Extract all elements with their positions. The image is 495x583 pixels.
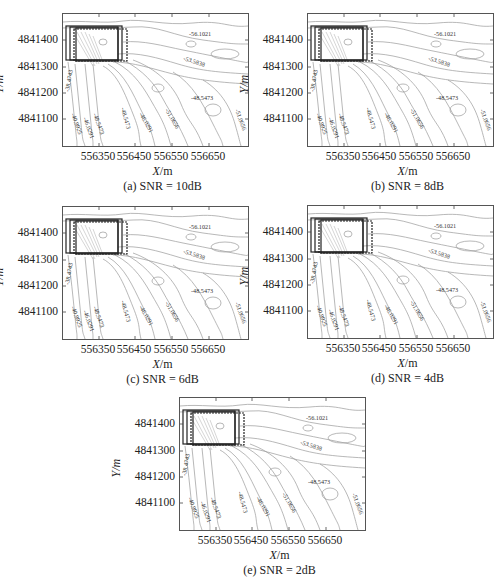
x-axis-label: X/m xyxy=(250,548,310,563)
y-tick-label: 4841200 xyxy=(247,278,303,290)
x-axis-var: X xyxy=(269,548,276,562)
plot-area: -56.1021 -53.5838 -48.5473 -51.0656 -51.… xyxy=(307,205,494,339)
x-tick-label: 556650 xyxy=(300,534,350,546)
x-axis-label: X/m xyxy=(378,164,438,179)
y-tick-label: 4841400 xyxy=(2,226,58,238)
x-axis-label: X/m xyxy=(133,357,193,372)
x-axis-unit: /m xyxy=(277,548,290,562)
contour-label: -56.1021 xyxy=(189,223,211,230)
x-axis-var: X xyxy=(397,164,404,178)
contour-label: -53.5838 xyxy=(428,54,451,68)
y-axis-label: Y/m xyxy=(237,256,252,286)
contour-label: -38.4743 xyxy=(308,69,319,92)
plot-area: -56.1021 -53.5838 -48.5473 -51.0656 -51.… xyxy=(62,206,249,340)
contour-label: -48.5473 xyxy=(120,106,132,129)
x-axis-unit: /m xyxy=(405,164,418,178)
y-axis-label: Y/m xyxy=(109,448,124,478)
y-tick-label: 4841300 xyxy=(247,60,303,72)
contour-label: -51.0656 xyxy=(164,107,181,130)
panel-caption: (a) SNR = 10dB xyxy=(63,179,263,194)
x-axis-unit: /m xyxy=(160,164,173,178)
x-axis-var: X xyxy=(152,357,159,371)
y-tick-label: 4841300 xyxy=(2,60,58,72)
contour-label: -56.1021 xyxy=(434,222,456,229)
contour-label: -48.5473 xyxy=(191,94,213,101)
plot-area: -56.1021 -53.5838 -48.5473 -51.0656 -51.… xyxy=(62,13,249,147)
contour-label: -46.0291 xyxy=(255,495,272,518)
contour-map: -56.1021 -53.5838 -48.5473 -51.0656 -51.… xyxy=(180,398,365,530)
contour-label: -51.0656 xyxy=(164,300,181,323)
contour-label: -46.0291 xyxy=(138,304,155,327)
x-axis-label: X/m xyxy=(133,164,193,179)
x-axis-unit: /m xyxy=(405,356,418,370)
panel-caption: (d) SNR = 4dB xyxy=(308,371,495,386)
x-tick-label: 556650 xyxy=(428,150,478,162)
contour-label: -46.0291 xyxy=(138,111,155,134)
x-tick-label: 556650 xyxy=(183,343,233,355)
contour-map: -56.1021 -53.5838 -48.5473 -51.0656 -51.… xyxy=(63,14,248,146)
contour-label: -46.0291 xyxy=(383,303,400,326)
y-tick-label: 4841400 xyxy=(247,225,303,237)
contour-label: -38.4743 xyxy=(180,453,191,476)
plot-area: -56.1021 -53.5838 -48.5473 -51.0656 -51.… xyxy=(179,397,366,531)
y-tick-label: 4841300 xyxy=(2,253,58,265)
x-axis-var: X xyxy=(152,164,159,178)
contour-label: -51.0656 xyxy=(409,107,426,130)
y-tick-label: 4841100 xyxy=(2,305,58,317)
contour-label: -56.1021 xyxy=(434,30,456,37)
contour-label: -51.0656 xyxy=(281,491,298,514)
contour-map: -56.1021 -53.5838 -48.5473 -51.0656 -51.… xyxy=(308,14,493,146)
contour-label: -40.9925 xyxy=(315,112,329,135)
y-tick-label: 4841200 xyxy=(119,470,175,482)
contour-map: -56.1021 -53.5838 -48.5473 -51.0656 -51.… xyxy=(63,207,248,339)
contour-label: -56.1021 xyxy=(306,414,328,421)
y-tick-label: 4841200 xyxy=(2,279,58,291)
contour-label: -38.4743 xyxy=(63,69,74,92)
panel-caption: (c) SNR = 6dB xyxy=(63,372,263,387)
y-axis-label: Y/m xyxy=(237,64,252,94)
x-axis-label: X/m xyxy=(378,356,438,371)
contour-label: -40.9925 xyxy=(70,112,84,135)
contour-label: -40.9925 xyxy=(315,304,329,327)
y-axis-label: Y/m xyxy=(0,64,7,94)
y-tick-label: 4841300 xyxy=(247,252,303,264)
contour-label: -48.5473 xyxy=(436,286,458,293)
y-tick-label: 4841100 xyxy=(247,112,303,124)
contour-label: -40.9925 xyxy=(187,496,201,519)
contour-label: -53.5838 xyxy=(183,247,206,261)
plot-area: -56.1021 -53.5838 -48.5473 -51.0656 -51.… xyxy=(307,13,494,147)
contour-label: -51.0656 xyxy=(409,299,426,322)
y-axis-label: Y/m xyxy=(0,257,7,287)
contour-label: -53.5838 xyxy=(183,54,206,68)
contour-label: -48.5473 xyxy=(436,94,458,101)
contour-label: -48.5473 xyxy=(191,287,213,294)
y-tick-label: 4841100 xyxy=(2,112,58,124)
x-axis-unit: /m xyxy=(160,357,173,371)
contour-label: -48.5473 xyxy=(237,490,249,513)
x-tick-label: 556650 xyxy=(428,342,478,354)
y-tick-label: 4841200 xyxy=(2,86,58,98)
panel-caption: (b) SNR = 8dB xyxy=(308,179,495,194)
contour-label: -46.0291 xyxy=(383,111,400,134)
contour-label: -53.5838 xyxy=(428,246,451,260)
y-tick-label: 4841300 xyxy=(119,444,175,456)
contour-label: -38.4743 xyxy=(308,261,319,284)
contour-label: -53.5838 xyxy=(300,438,323,452)
x-axis-var: X xyxy=(397,356,404,370)
x-tick-label: 556650 xyxy=(183,150,233,162)
contour-label: -48.5473 xyxy=(365,106,378,129)
contour-label: -38.4743 xyxy=(63,262,74,285)
contour-label: -48.5473 xyxy=(120,299,132,322)
y-tick-label: 4841400 xyxy=(247,33,303,45)
contour-label: -40.9925 xyxy=(70,305,84,328)
y-tick-label: 4841200 xyxy=(247,86,303,98)
contour-map: -56.1021 -53.5838 -48.5473 -51.0656 -51.… xyxy=(308,206,493,338)
contour-label: -56.1021 xyxy=(189,30,211,37)
panel-caption: (e) SNR = 2dB xyxy=(180,563,380,578)
y-tick-label: 4841100 xyxy=(119,496,175,508)
contour-label: -48.5473 xyxy=(365,298,378,321)
y-tick-label: 4841400 xyxy=(119,417,175,429)
y-tick-label: 4841400 xyxy=(2,33,58,45)
y-tick-label: 4841100 xyxy=(247,304,303,316)
contour-label: -48.5473 xyxy=(308,478,330,485)
